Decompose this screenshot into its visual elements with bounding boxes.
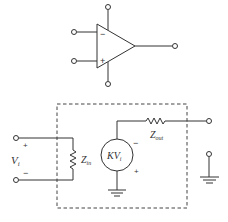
opamp-equivalent-model: + − Vi Zin KVi − + Zout <box>11 104 219 208</box>
input-plus-sign: + <box>23 141 28 150</box>
zin-label: Zin <box>81 154 91 166</box>
source-label: KVi <box>106 150 122 162</box>
diagram-canvas: − + + − Vi Zin KVi − + Zout <box>0 0 228 222</box>
source-plus-sign: + <box>134 167 139 176</box>
noninverting-sign: + <box>100 56 105 66</box>
opamp-output-terminal <box>173 44 178 49</box>
noninverting-input-terminal <box>72 59 77 64</box>
opamp-symbol: − + <box>72 5 178 87</box>
ground-icon <box>108 190 126 196</box>
input-voltage-label: Vi <box>11 154 20 168</box>
source-output-wire <box>117 121 146 139</box>
inverting-sign: − <box>100 29 105 39</box>
input-terminal-negative <box>14 178 19 183</box>
source-minus-sign: − <box>133 138 138 148</box>
negative-supply-terminal <box>106 82 111 87</box>
zout-resistor <box>146 118 165 124</box>
input-terminal-positive <box>14 136 19 141</box>
zin-resistor <box>70 138 76 180</box>
inverting-input-terminal <box>72 30 77 35</box>
ground-terminal <box>207 152 212 157</box>
positive-supply-terminal <box>106 5 111 10</box>
output-terminal <box>207 119 212 124</box>
zout-label: Zout <box>150 129 164 141</box>
input-minus-sign: − <box>23 168 28 178</box>
model-boundary <box>57 104 187 208</box>
ground-icon <box>200 177 219 183</box>
